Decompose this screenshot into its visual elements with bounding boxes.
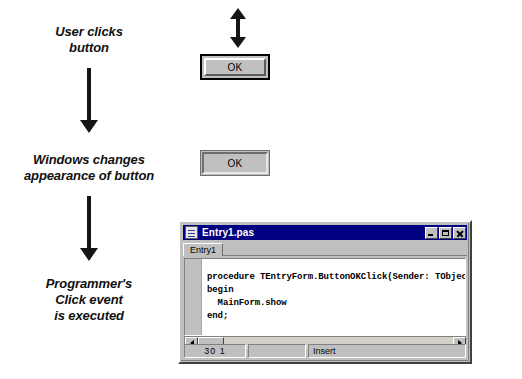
arrow-shaft (87, 68, 91, 122)
code-editor-area[interactable]: procedure TEntryForm.ButtonOKClick(Sende… (184, 258, 466, 336)
arrow-head (80, 248, 98, 261)
up-down-arrow-icon (229, 8, 247, 48)
window-controls (425, 227, 466, 239)
ok-button-pressed-label: OK (202, 152, 268, 174)
step-caption-user-clicks-button: User clicks button (0, 24, 178, 56)
code-editor-window: Entry1.pas Entry1 procedure TEntryForm.B… (178, 220, 472, 364)
down-arrow-icon-step1-to-step2 (78, 68, 100, 134)
tab-entry1[interactable]: Entry1 (183, 243, 223, 256)
ok-button-default-label: OK (204, 58, 266, 76)
minimize-icon[interactable] (425, 227, 438, 239)
status-cursor-position: 30 1 (184, 344, 246, 358)
tab-strip-filler (223, 242, 467, 256)
status-modified-panel (248, 344, 306, 358)
step-caption-windows-changes-appearance: Windows changes appearance of button (0, 152, 178, 184)
tab-entry1-label: Entry1 (190, 245, 216, 255)
ok-button-pressed[interactable]: OK (200, 150, 270, 176)
arrow-head (80, 120, 98, 133)
window-title: Entry1.pas (202, 227, 425, 238)
close-icon[interactable] (453, 227, 466, 239)
status-insert-mode: Insert (308, 344, 466, 358)
editor-statusbar: 30 1 Insert (184, 344, 466, 358)
window-titlebar[interactable]: Entry1.pas (183, 225, 467, 240)
arrow-shaft (236, 17, 240, 39)
arrow-shaft (87, 196, 91, 250)
document-icon (185, 226, 198, 239)
ok-button-default[interactable]: OK (200, 54, 270, 80)
arrow-head-down (230, 37, 246, 48)
editor-gutter (185, 259, 202, 335)
step-caption-click-event-executed: Programmer's Click event is executed (0, 276, 178, 324)
maximize-icon[interactable] (439, 227, 452, 239)
source-code-text: procedure TEntryForm.ButtonOKClick(Sende… (207, 271, 465, 323)
down-arrow-icon-step2-to-step3 (78, 196, 100, 262)
editor-tab-strip: Entry1 (183, 242, 467, 256)
